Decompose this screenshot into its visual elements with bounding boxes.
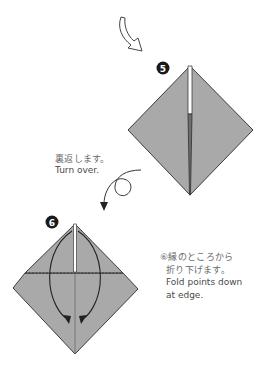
turn-over-arrow-icon: [100, 170, 141, 211]
step-5-badge: 5: [157, 62, 170, 75]
step6-caption-jp-1: ⑥縁のところから: [160, 250, 233, 263]
step-6-badge: 6: [46, 216, 59, 229]
step-5-diamond: [128, 66, 253, 195]
step6-caption-en-2: at edge.: [166, 290, 203, 300]
turn-over-jp: 裏返します。: [55, 152, 110, 165]
svg-text:6: 6: [49, 218, 55, 228]
diagram-canvas: 5 6: [0, 0, 269, 370]
svg-text:5: 5: [160, 64, 166, 74]
turn-over-en: Turn over.: [55, 165, 99, 175]
curved-arrow-icon: [120, 17, 142, 51]
step6-caption-jp-2: 折り下げます。: [166, 263, 230, 276]
step6-caption-en-1: Fold points down: [166, 277, 242, 287]
step-6-diamond: [13, 224, 138, 354]
